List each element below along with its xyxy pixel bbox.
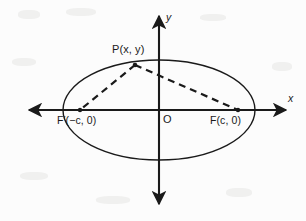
ellipse-figure: P(x, y) F′(−c, 0) F(c, 0) O x y — [0, 0, 306, 221]
focus-right-label: F(c, 0) — [210, 115, 241, 126]
point-focus-right-marker — [236, 108, 240, 112]
point-p-marker — [133, 63, 138, 68]
focus-left-label: F′(−c, 0) — [57, 115, 96, 126]
y-axis-label: y — [166, 12, 171, 23]
figure-canvas — [0, 0, 306, 221]
x-axis-label: x — [288, 93, 293, 104]
segment-p-to-left-focus — [80, 65, 135, 110]
point-p-label: P(x, y) — [112, 44, 144, 55]
point-focus-left-marker — [78, 108, 82, 112]
origin-label: O — [163, 114, 172, 125]
